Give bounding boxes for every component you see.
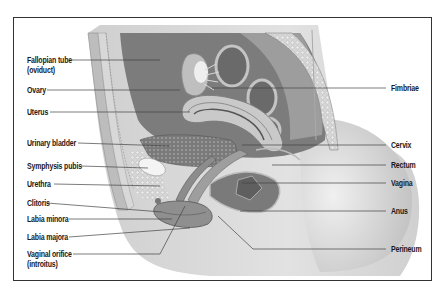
label-urethra: Urethra — [27, 179, 51, 189]
label-vaginal-orifice: Vaginal orifice (introitus) — [27, 249, 72, 269]
label-text: Fallopian tube — [27, 55, 72, 65]
label-anus: Anus — [391, 206, 408, 216]
label-fimbriae: Fimbriae — [391, 83, 419, 93]
label-labia-majora: Labia majora — [27, 232, 68, 242]
label-urinary-bladder: Urinary bladder — [27, 138, 76, 148]
label-rectum: Rectum — [391, 160, 416, 170]
label-labia-minora: Labia minora — [27, 214, 68, 224]
label-uterus: Uterus — [27, 107, 48, 117]
label-subtext: (oviduct) — [27, 65, 72, 75]
label-text: Vaginal orifice — [27, 249, 72, 259]
label-subtext: (introitus) — [27, 259, 72, 269]
label-cervix: Cervix — [391, 140, 411, 150]
label-vagina: Vagina — [391, 178, 412, 188]
label-ovary: Ovary — [27, 85, 46, 95]
label-fallopian-tube: Fallopian tube (oviduct) — [27, 55, 72, 75]
label-symphysis-pubis: Symphysis pubis — [27, 161, 82, 171]
label-perineum: Perineum — [391, 244, 421, 254]
label-clitoris: Clitoris — [27, 198, 50, 208]
